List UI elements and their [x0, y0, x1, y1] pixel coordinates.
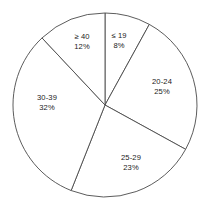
- pie-slice-category: 20-24: [152, 77, 172, 87]
- pie-slice-category: 30-39: [37, 93, 57, 103]
- pie-chart: ≤ 19 8% 20-24 25% 25-29 23% 30-39 32% ≥ …: [0, 0, 213, 213]
- pie-slice-label-le-19: ≤ 19 8%: [111, 31, 126, 50]
- pie-slice-label-ge-40: ≥ 40 12%: [74, 32, 90, 51]
- pie-slice-percent: 23%: [121, 163, 141, 173]
- pie-slice-percent: 32%: [37, 103, 57, 113]
- pie-slice-category: ≤ 19: [111, 31, 126, 41]
- pie-slice-label-20-24: 20-24 25%: [152, 77, 172, 96]
- pie-slice-percent: 25%: [152, 87, 172, 97]
- pie-slice-percent: 12%: [74, 42, 90, 52]
- pie-slice-label-25-29: 25-29 23%: [121, 153, 141, 172]
- pie-slice-category: 25-29: [121, 153, 141, 163]
- pie-chart-canvas: [0, 0, 213, 213]
- pie-slice-category: ≥ 40: [74, 32, 90, 42]
- pie-slice-label-30-39: 30-39 32%: [37, 93, 57, 112]
- pie-slice-percent: 8%: [111, 41, 126, 51]
